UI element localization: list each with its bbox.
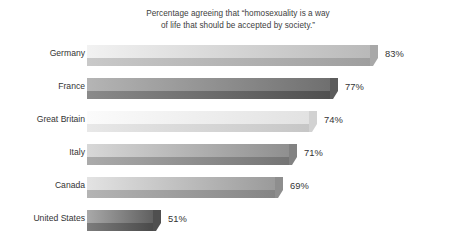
bar-end-cap xyxy=(370,45,378,66)
bar-value-label: 51% xyxy=(168,213,187,224)
chart-title-line-2: of life that should be accepted by socie… xyxy=(0,20,476,32)
bar-bottom-face xyxy=(87,190,276,198)
category-label: Great Britain xyxy=(0,114,85,125)
bar xyxy=(87,78,338,99)
bar xyxy=(87,177,283,198)
bar-value-label: 83% xyxy=(385,48,404,59)
bar-top-face xyxy=(87,210,154,223)
bar-top-face xyxy=(87,144,290,157)
bar-row: Great Britain74% xyxy=(0,106,476,139)
bar-end-cap xyxy=(289,144,297,165)
bar-bottom-face xyxy=(87,223,154,231)
chart-container: Percentage agreeing that “homosexuality … xyxy=(0,0,476,242)
category-label: Canada xyxy=(0,180,85,191)
category-label: Germany xyxy=(0,48,85,59)
bar-value-label: 71% xyxy=(304,147,323,158)
bar-value-label: 77% xyxy=(345,81,364,92)
plot-area: Germany83%France77%Great Britain74%Italy… xyxy=(0,40,476,242)
bar-row: United States51% xyxy=(0,205,476,238)
bar-end-cap xyxy=(153,210,161,231)
bar-end-cap xyxy=(309,111,317,132)
bar-bottom-face xyxy=(87,124,310,132)
bar-end-cap xyxy=(275,177,283,198)
bar-bottom-face xyxy=(87,58,371,66)
chart-title-line-1: Percentage agreeing that “homosexuality … xyxy=(0,8,476,20)
bar-bottom-face xyxy=(87,157,290,165)
bar xyxy=(87,45,378,66)
chart-title: Percentage agreeing that “homosexuality … xyxy=(0,8,476,31)
bar-row: Italy71% xyxy=(0,139,476,172)
bar-top-face xyxy=(87,45,371,58)
category-label: Italy xyxy=(0,147,85,158)
bar-value-label: 74% xyxy=(324,114,343,125)
bar xyxy=(87,210,161,231)
bar xyxy=(87,111,317,132)
bar xyxy=(87,144,297,165)
bar-end-cap xyxy=(330,78,338,99)
bar-top-face xyxy=(87,78,331,91)
bar-row: Germany83% xyxy=(0,40,476,73)
bar-top-face xyxy=(87,111,310,124)
category-label: France xyxy=(0,81,85,92)
category-label: United States xyxy=(0,213,85,224)
bar-bottom-face xyxy=(87,91,331,99)
bar-row: Canada69% xyxy=(0,172,476,205)
bar-value-label: 69% xyxy=(290,180,309,191)
bar-row: France77% xyxy=(0,73,476,106)
bar-top-face xyxy=(87,177,276,190)
